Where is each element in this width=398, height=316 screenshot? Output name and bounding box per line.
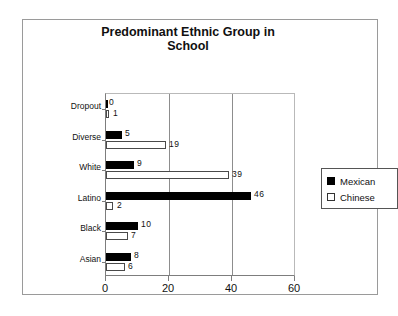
bar-mexican-diverse[interactable] <box>106 131 122 139</box>
bar-mexican-asian[interactable] <box>106 253 131 261</box>
bar-chinese-white[interactable] <box>106 171 229 179</box>
x-tick-40 <box>231 276 232 281</box>
legend-swatch-filled-square-icon <box>327 177 335 185</box>
x-tick-20 <box>168 276 169 281</box>
bar-chinese-asian[interactable] <box>106 263 125 271</box>
value-label-mexican-diverse: 5 <box>125 129 130 138</box>
legend-label-mexican: Mexican <box>340 176 375 187</box>
x-tick-label-40: 40 <box>225 282 237 295</box>
value-label-chinese-asian: 6 <box>128 262 133 271</box>
bar-group-asian: 8 6 <box>106 247 294 278</box>
category-label-asian: Asian <box>45 254 101 264</box>
category-label-black: Black <box>45 223 101 233</box>
value-label-chinese-dropout: 1 <box>113 109 118 118</box>
plot-area: 0 1 5 19 9 39 46 2 <box>105 93 295 276</box>
chart-title-line-2: School <box>63 39 313 53</box>
bar-group-dropout: 0 1 <box>106 94 294 125</box>
x-tick-label-60: 60 <box>288 282 300 295</box>
value-label-mexican-dropout: 0 <box>109 98 114 107</box>
value-label-mexican-latino: 46 <box>254 190 265 199</box>
category-label-white: White <box>45 162 101 172</box>
bar-group-diverse: 5 19 <box>106 125 294 156</box>
bar-mexican-black[interactable] <box>106 222 138 230</box>
x-tick-label-0: 0 <box>102 282 108 295</box>
legend-item-mexican[interactable]: Mexican <box>327 173 397 189</box>
chart-title: Predominant Ethnic Group in School <box>63 25 313 53</box>
x-tick-0 <box>105 276 106 281</box>
bar-chinese-latino[interactable] <box>106 202 113 210</box>
value-label-chinese-latino: 2 <box>117 201 122 210</box>
bar-group-white: 9 39 <box>106 155 294 186</box>
value-label-chinese-black: 7 <box>131 231 136 240</box>
x-axis-ticks <box>105 276 295 281</box>
x-tick-label-20: 20 <box>162 282 174 295</box>
chart-figure-frame: Predominant Ethnic Group in School Dropo… <box>22 19 378 295</box>
legend-label-chinese: Chinese <box>340 192 375 203</box>
value-label-mexican-black: 10 <box>141 220 152 229</box>
legend-swatch-outline-square-icon <box>327 193 335 201</box>
bar-mexican-latino[interactable] <box>106 192 251 200</box>
bar-group-latino: 46 2 <box>106 186 294 217</box>
category-label-dropout: Dropout <box>45 101 101 111</box>
x-axis-tick-labels: 0 20 40 60 <box>105 282 295 296</box>
bar-mexican-white[interactable] <box>106 161 134 169</box>
category-label-latino: Latino <box>45 193 101 203</box>
value-label-chinese-diverse: 19 <box>169 140 180 149</box>
bar-chinese-dropout[interactable] <box>106 110 109 118</box>
value-label-mexican-asian: 8 <box>134 251 139 260</box>
value-label-mexican-white: 9 <box>137 159 142 168</box>
chart-title-line-1: Predominant Ethnic Group in <box>63 25 313 39</box>
bar-chinese-black[interactable] <box>106 232 128 240</box>
bar-group-black: 10 7 <box>106 216 294 247</box>
category-label-diverse: Diverse <box>45 132 101 142</box>
x-tick-60 <box>294 276 295 281</box>
bar-chinese-diverse[interactable] <box>106 141 166 149</box>
chart-legend: Mexican Chinese <box>321 168 398 209</box>
value-label-chinese-white: 39 <box>232 170 243 179</box>
y-axis-category-labels: Dropout Diverse White Latino Black Asian <box>41 93 101 276</box>
legend-item-chinese[interactable]: Chinese <box>327 189 397 205</box>
bar-mexican-dropout[interactable] <box>106 100 108 108</box>
